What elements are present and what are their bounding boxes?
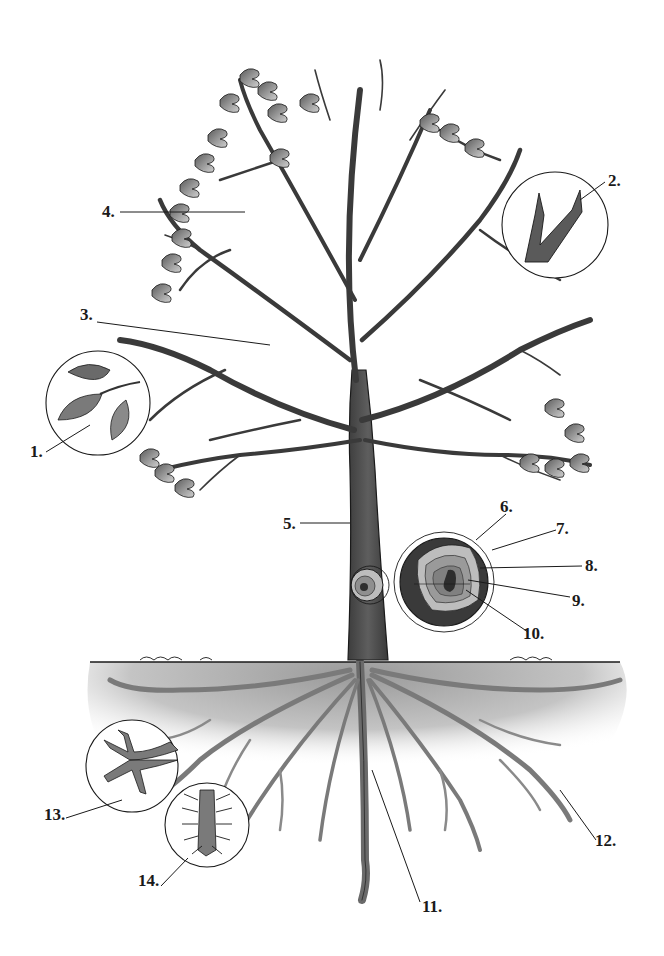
label-8: 8. bbox=[585, 557, 598, 574]
label-4: 4. bbox=[102, 203, 115, 220]
label-11: 11. bbox=[422, 898, 442, 915]
label-10: 10. bbox=[523, 625, 544, 642]
label-1: 1. bbox=[30, 443, 43, 460]
label-3: 3. bbox=[80, 306, 93, 323]
tree-anatomy-diagram bbox=[0, 0, 664, 956]
bud-inset bbox=[502, 172, 608, 278]
label-14: 14. bbox=[138, 872, 159, 889]
label-13: 13. bbox=[44, 806, 65, 823]
label-9: 9. bbox=[572, 592, 585, 609]
label-6: 6. bbox=[500, 498, 513, 515]
trunk-cross-section-marker bbox=[351, 566, 389, 604]
root-hair-inset bbox=[165, 783, 249, 867]
leaf-inset bbox=[46, 351, 150, 455]
label-7: 7. bbox=[556, 520, 569, 537]
label-12: 12. bbox=[595, 832, 616, 849]
label-5: 5. bbox=[283, 515, 296, 532]
root-tip-inset bbox=[86, 720, 178, 812]
label-2: 2. bbox=[608, 172, 621, 189]
